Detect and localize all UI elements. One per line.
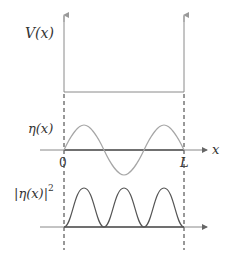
probability-curve: [64, 188, 184, 227]
wavefunction-label: η(x): [28, 121, 53, 136]
square-well-diagram: V(x) η(x) x 0 L |η(x)| 2: [0, 0, 237, 262]
x-axis-label: x: [212, 142, 220, 157]
potential-label: V(x): [25, 25, 54, 41]
origin-tick-label: 0: [59, 156, 67, 170]
probability-label: |η(x)|: [14, 186, 48, 201]
potential-well: [64, 15, 184, 92]
length-tick-label: L: [179, 155, 189, 170]
probability-exponent: 2: [48, 183, 54, 193]
